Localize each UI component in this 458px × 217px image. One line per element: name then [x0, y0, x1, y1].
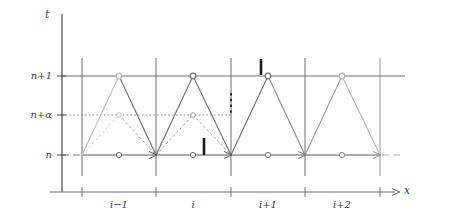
- x-cell-label-i-plus-1: i+1: [248, 199, 288, 210]
- axis-lines: [50, 14, 400, 195]
- space-time-characteristics-diagram: t x n+1 n+α n i−1 i i+1 i+2: [0, 0, 458, 217]
- y-axis-label: t: [45, 8, 49, 21]
- y-tick-label-n: n: [0, 149, 52, 160]
- x-cell-label-i: i: [173, 199, 213, 210]
- y-tick-label-n-plus-alpha: n+α: [0, 109, 52, 120]
- dashed-characteristic-triangle-cell-i: [156, 115, 231, 155]
- y-tick-label-n-plus-1: n+1: [0, 70, 52, 81]
- characteristic-triangle-cell-i-plus-2: [305, 76, 380, 155]
- x-cell-label-i-minus-1: i−1: [99, 199, 139, 210]
- dashed-characteristic-triangle-cell-i-minus-1: [82, 115, 156, 155]
- diagram-canvas: [0, 0, 458, 217]
- x-cell-label-i-plus-2: i+2: [322, 199, 362, 210]
- characteristic-triangle-cell-i-plus-1: [231, 76, 305, 155]
- x-axis-label: x: [404, 184, 410, 197]
